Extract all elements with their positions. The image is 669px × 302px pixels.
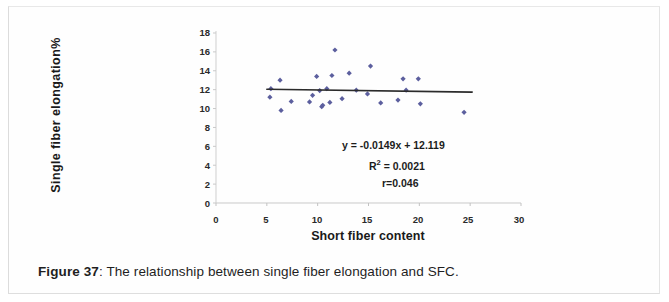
annotation-correlation: r=0.046 [382, 177, 419, 189]
r-squared-prefix: R [369, 160, 377, 172]
data-point [289, 99, 294, 104]
data-point [418, 101, 423, 106]
annotation-r-squared: R2 = 0.0021 [369, 158, 425, 172]
data-point [278, 108, 283, 113]
figure-caption: Figure 37: The relationship between sing… [38, 264, 638, 279]
trendline [267, 89, 472, 92]
data-point [277, 78, 282, 83]
figure-caption-text: : The relationship between single fiber … [99, 264, 459, 279]
data-point [368, 63, 373, 68]
data-point [400, 76, 405, 81]
data-point [365, 91, 370, 96]
data-point [347, 71, 352, 76]
data-point [310, 93, 315, 98]
data-point [267, 95, 272, 100]
figure-area: Single fiber elongation% 18 16 14 12 10 … [0, 0, 669, 250]
data-points-group [267, 47, 466, 115]
data-point [378, 100, 383, 105]
annotation-equation: y = -0.0149x + 12.119 [342, 139, 445, 151]
data-point [416, 76, 421, 81]
scatter-plot-canvas [0, 0, 669, 250]
r-squared-value: = 0.0021 [381, 160, 425, 172]
figure-number: Figure 37 [38, 264, 99, 279]
data-point [395, 97, 400, 102]
figure-page: Single fiber elongation% 18 16 14 12 10 … [0, 0, 669, 302]
data-point [314, 74, 319, 79]
axes-group [213, 31, 521, 206]
data-point [307, 99, 312, 104]
data-point [332, 47, 337, 52]
data-point [329, 73, 334, 78]
data-point [461, 110, 466, 115]
data-point [327, 100, 332, 105]
data-point [339, 96, 344, 101]
